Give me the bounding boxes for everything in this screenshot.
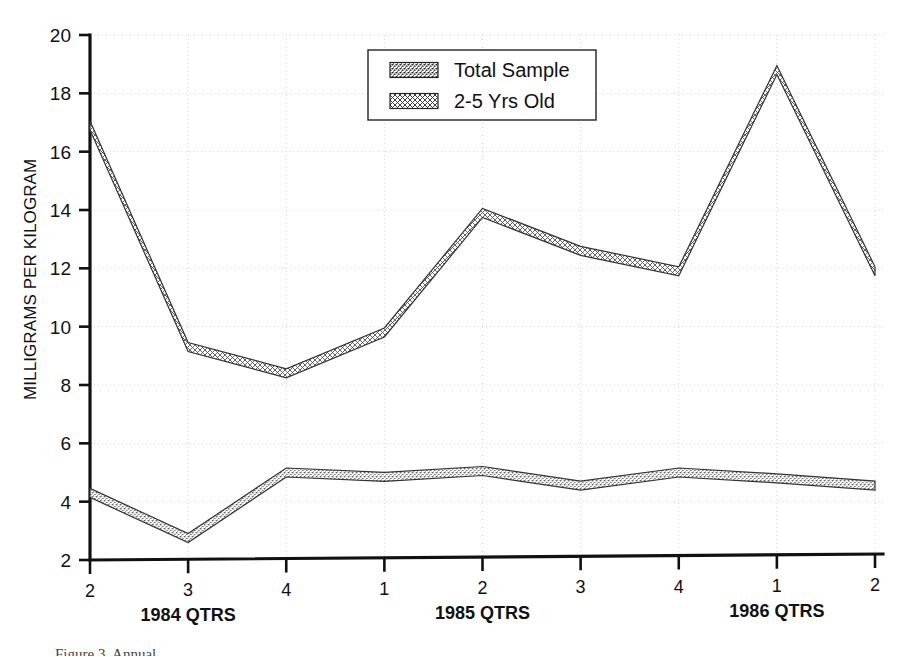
figure-caption: Figure 3. Annual — [55, 646, 385, 656]
y-tick-12: 12 — [50, 258, 71, 279]
x-tick-6: 4 — [674, 577, 684, 597]
chart-figure: 2018161412108642 234123412 1984 QTRS1985… — [0, 0, 901, 657]
legend-swatch-1 — [390, 94, 438, 109]
x-tick-3: 1 — [379, 579, 389, 599]
x-tick-1: 3 — [183, 580, 193, 600]
x-tick-7: 1 — [772, 576, 782, 596]
y-tick-18: 18 — [50, 83, 71, 104]
y-tick-4: 4 — [60, 492, 71, 513]
y-tick-8: 8 — [60, 375, 71, 396]
x-tick-2: 4 — [281, 580, 291, 600]
legend-entry-0: Total Sample — [390, 59, 570, 81]
y-tick-6: 6 — [60, 433, 71, 454]
y-axis-title: MILLIGRAMS PER KILOGRAM — [21, 159, 40, 400]
chart-legend: Total Sample2-5 Yrs Old — [368, 50, 596, 120]
legend-entry-1: 2-5 Yrs Old — [390, 90, 555, 112]
legend-label-1: 2-5 Yrs Old — [454, 90, 555, 112]
y-tick-14: 14 — [50, 200, 72, 221]
legend-label-0: Total Sample — [454, 59, 570, 81]
x-group-label-0: 1984 QTRS — [141, 605, 236, 625]
y-tick-2: 2 — [60, 550, 71, 571]
x-tick-5: 3 — [576, 577, 586, 597]
x-tick-4: 2 — [477, 578, 487, 598]
chart-canvas: 2018161412108642 234123412 1984 QTRS1985… — [0, 0, 901, 657]
x-tick-0: 2 — [85, 581, 95, 601]
legend-swatch-0 — [390, 63, 438, 78]
y-tick-20: 20 — [50, 25, 71, 46]
x-tick-8: 2 — [870, 575, 880, 595]
x-group-label-1: 1985 QTRS — [435, 603, 530, 623]
y-tick-16: 16 — [50, 142, 71, 163]
y-tick-10: 10 — [50, 317, 71, 338]
x-group-label-2: 1986 QTRS — [729, 601, 824, 621]
